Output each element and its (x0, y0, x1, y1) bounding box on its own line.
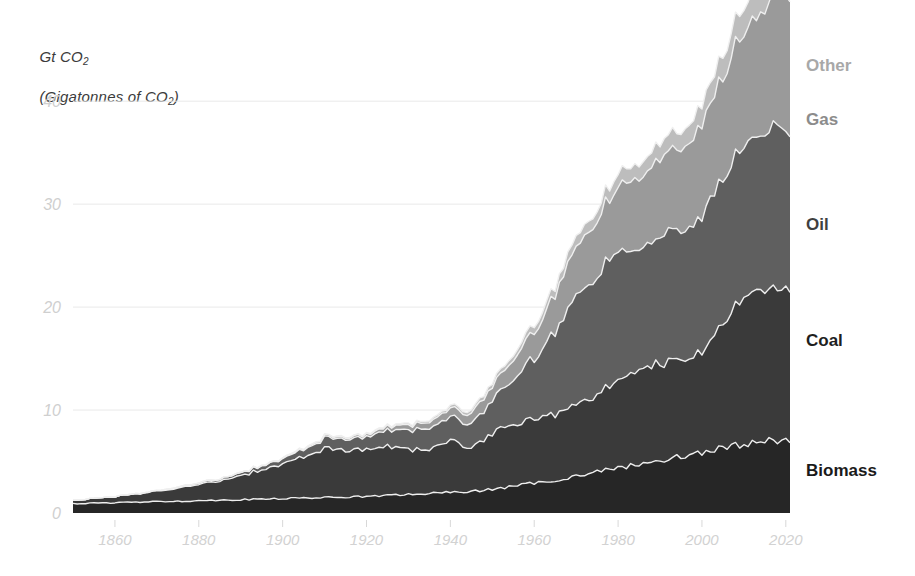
co2-emissions-area-chart: Gt CO2 (Gigatonnes of CO2) 010203040 186… (0, 0, 915, 576)
y-tick-label: 30 (43, 196, 61, 213)
x-tick-label: 1940 (434, 531, 468, 548)
y-tick-label: 0 (52, 505, 61, 522)
series-label-gas: Gas (806, 110, 838, 130)
x-tick-label: 1880 (182, 531, 216, 548)
x-tick-label: 2000 (684, 531, 719, 548)
x-tick-label: 1860 (98, 531, 132, 548)
x-axis-tick-labels: 186018801900192019401960198020002020 (98, 531, 803, 548)
x-tick-label: 2020 (768, 531, 803, 548)
x-tick-label: 1980 (601, 531, 635, 548)
y-axis-tick-labels: 010203040 (42, 93, 61, 522)
stacked-areas (73, 0, 790, 513)
y-tick-label: 10 (43, 402, 61, 419)
x-tick-label: 1900 (266, 531, 300, 548)
series-label-coal: Coal (806, 331, 843, 351)
plot-area: 010203040 186018801900192019401960198020… (0, 0, 915, 576)
y-tick-label: 20 (42, 299, 61, 316)
series-label-oil: Oil (806, 215, 829, 235)
y-tick-label: 40 (43, 93, 61, 110)
x-tick-label: 1920 (350, 531, 384, 548)
x-tick-label: 1960 (518, 531, 552, 548)
series-label-biomass: Biomass (806, 461, 877, 481)
x-axis-ticks (115, 520, 786, 527)
series-label-other: Other (806, 56, 851, 76)
